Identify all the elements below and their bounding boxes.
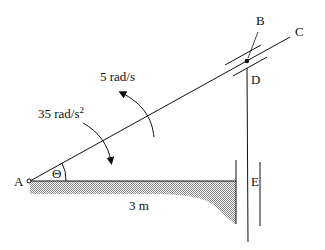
label-b: B <box>256 14 265 27</box>
label-angular-acceleration: 35 rad/s2 <box>38 106 84 120</box>
label-e: E <box>251 175 259 188</box>
angular-accel-exponent: 2 <box>80 105 85 115</box>
label-a: A <box>14 175 23 188</box>
mechanism-diagram: A B C D E Θ 3 m 5 rad/s 35 rad/s2 <box>0 0 325 250</box>
label-theta: Θ <box>52 167 61 180</box>
label-angular-velocity: 5 rad/s <box>100 70 135 83</box>
rod-de <box>247 68 248 242</box>
pivot-a <box>27 179 31 183</box>
slot-line-upper <box>225 45 261 65</box>
label-c: C <box>295 25 304 38</box>
theta-arc <box>62 163 66 181</box>
alpha-arrow <box>83 123 111 161</box>
diagram-graphics <box>0 0 325 250</box>
label-d: D <box>251 73 260 86</box>
label-distance: 3 m <box>129 199 149 212</box>
pin-b <box>245 59 250 64</box>
leader-b <box>248 32 258 58</box>
angular-accel-value: 35 rad/s <box>38 106 80 121</box>
slot-line-lower <box>233 57 267 76</box>
